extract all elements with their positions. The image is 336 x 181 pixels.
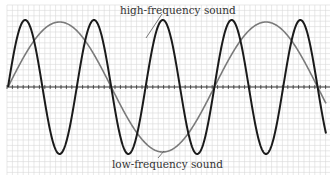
high-frequency-label: high-frequency sound bbox=[120, 4, 236, 16]
low-frequency-label: low-frequency sound bbox=[112, 158, 223, 170]
sound-wave-diagram: high-frequency sound low-frequency sound bbox=[0, 0, 336, 181]
